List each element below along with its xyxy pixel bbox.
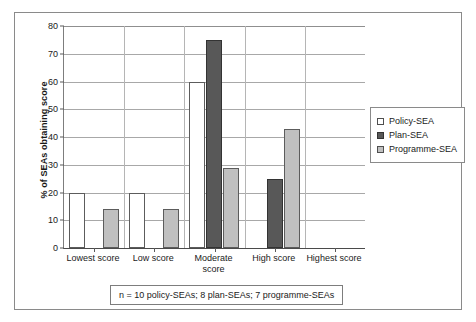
y-tick-label: 50 bbox=[48, 105, 58, 114]
legend: Policy-SEAPlan-SEAProgramme-SEA bbox=[370, 107, 465, 163]
x-axis-label: Moderate score bbox=[183, 253, 243, 275]
bar-group bbox=[245, 26, 305, 248]
y-tick-label: 80 bbox=[48, 22, 58, 31]
y-tick-label: 20 bbox=[48, 188, 58, 197]
legend-item-label: Programme-SEA bbox=[389, 145, 457, 154]
y-tick-label: 70 bbox=[48, 49, 58, 58]
y-tick-label: 0 bbox=[53, 244, 58, 253]
legend-item-label: Policy-SEA bbox=[389, 117, 434, 126]
bar-group bbox=[184, 26, 244, 248]
y-tick-label: 40 bbox=[48, 133, 58, 142]
light-gray-square-icon bbox=[377, 146, 384, 153]
x-tick-mark bbox=[215, 248, 216, 252]
white-square-icon bbox=[377, 118, 384, 125]
x-axis-label: Low score bbox=[123, 253, 183, 264]
x-axis-label: Lowest score bbox=[63, 253, 123, 264]
legend-item[interactable]: Plan-SEA bbox=[377, 128, 457, 142]
bar-programme bbox=[163, 209, 179, 248]
bar-group bbox=[124, 26, 184, 248]
y-tick-label: 30 bbox=[48, 160, 58, 169]
bar-programme bbox=[284, 129, 300, 248]
bar-plan bbox=[267, 179, 283, 248]
legend-item[interactable]: Policy-SEA bbox=[377, 114, 457, 128]
footnote: n = 10 policy-SEAs; 8 plan-SEAs; 7 progr… bbox=[110, 285, 343, 305]
bar-policy bbox=[69, 193, 85, 249]
bar-programme bbox=[223, 168, 239, 248]
plot-area: 01020304050607080 bbox=[63, 26, 365, 249]
x-tick-mark bbox=[94, 248, 95, 252]
dark-gray-square-icon bbox=[377, 132, 384, 139]
x-tick-mark bbox=[154, 248, 155, 252]
bar-plan bbox=[206, 40, 222, 248]
x-axis-label: High score bbox=[244, 253, 304, 264]
bar-group bbox=[64, 26, 124, 248]
legend-item-label: Plan-SEA bbox=[389, 131, 428, 140]
bar-programme bbox=[103, 209, 119, 248]
bar-policy bbox=[189, 82, 205, 249]
x-tick-mark bbox=[275, 248, 276, 252]
legend-item[interactable]: Programme-SEA bbox=[377, 142, 457, 156]
bar-policy bbox=[129, 193, 145, 249]
x-axis-label: Highest score bbox=[304, 253, 364, 264]
x-tick-mark bbox=[335, 248, 336, 252]
figure-frame: % of SEAs obtaining score 01020304050607… bbox=[14, 12, 462, 310]
y-tick-label: 60 bbox=[48, 77, 58, 86]
y-tick-label: 10 bbox=[48, 216, 58, 225]
bar-group bbox=[305, 26, 365, 248]
